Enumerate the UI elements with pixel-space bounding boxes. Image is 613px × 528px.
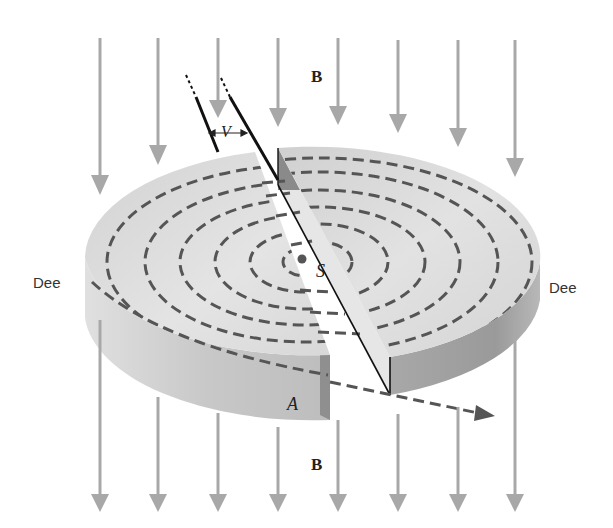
arrow-down-icon: [149, 38, 167, 165]
arrow-down-icon: [149, 397, 167, 512]
magnetic-field-label-bottom: B: [311, 456, 322, 473]
ion-source-dot: [298, 255, 307, 264]
magnetic-field-label-top: B: [311, 68, 322, 85]
arrow-down-icon: [209, 38, 227, 118]
arrow-down-icon: [506, 40, 524, 177]
source-label: S: [316, 262, 325, 280]
arrow-down-icon: [329, 420, 347, 512]
arrow-down-icon: [91, 38, 109, 195]
dee-left-label: Dee: [33, 275, 61, 290]
arrow-down-icon: [389, 414, 407, 512]
arrow-down-icon: [329, 38, 347, 125]
arrow-down-icon: [269, 427, 287, 512]
arrow-down-icon: [209, 413, 227, 512]
exit-point-label: A: [287, 395, 298, 413]
voltage-label: V: [221, 124, 231, 140]
dee-left-end-face: [320, 352, 330, 420]
cyclotron-svg: [0, 0, 613, 528]
cyclotron-diagram: B B V S A Dee Dee: [0, 0, 613, 528]
dee-right-label: Dee: [549, 280, 577, 295]
arrow-down-icon: [506, 320, 524, 512]
arrow-down-icon: [269, 38, 287, 127]
arrow-down-icon: [449, 407, 467, 512]
arrow-right-icon: [474, 405, 495, 421]
arrow-down-icon: [389, 40, 407, 133]
arrow-down-icon: [449, 40, 467, 147]
